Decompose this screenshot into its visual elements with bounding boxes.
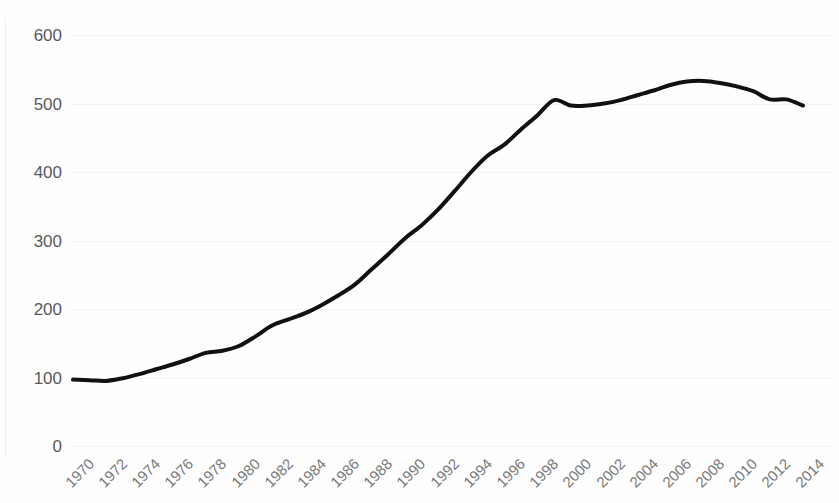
series-path <box>73 81 803 381</box>
series-line <box>0 0 839 503</box>
line-chart: 0100200300400500600 19701972197419761978… <box>0 0 839 503</box>
plot-area: 0100200300400500600 19701972197419761978… <box>0 0 839 503</box>
